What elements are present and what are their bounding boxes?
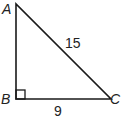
vertex-label-a: A <box>1 1 11 17</box>
side-label-bc: 9 <box>54 103 62 118</box>
triangle-abc <box>16 4 111 99</box>
side-label-ac: 15 <box>65 35 81 51</box>
vertex-label-b: B <box>1 91 10 107</box>
right-angle-marker <box>16 90 25 99</box>
vertex-label-c: C <box>110 91 121 107</box>
triangle-diagram: A B C 15 9 <box>0 0 121 118</box>
